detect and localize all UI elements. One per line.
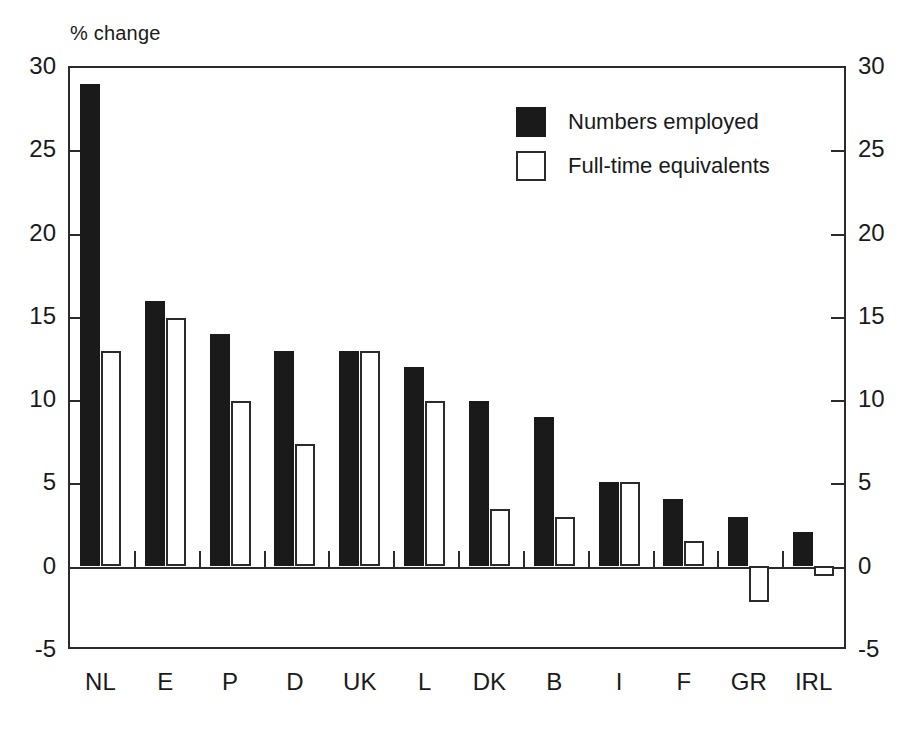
x-axis-label-uk: UK	[343, 668, 376, 696]
y-axis-label-left: 30	[29, 54, 56, 78]
x-axis-group-tick	[523, 551, 525, 568]
y-axis-label-right: -5	[858, 637, 879, 661]
x-axis-label-d: D	[286, 668, 303, 696]
y-axis-label-right: 0	[858, 554, 871, 578]
y-axis-tick-left	[70, 567, 83, 569]
bar-chart: % change 303025252020151510105500-5-5NLE…	[0, 0, 914, 731]
legend-label-numbers-employed: Numbers employed	[568, 109, 759, 135]
x-axis-group-tick	[199, 551, 201, 568]
y-axis-label-right: 5	[858, 470, 871, 494]
x-axis-label-i: I	[616, 668, 623, 696]
y-axis-label-left: 0	[43, 554, 56, 578]
y-axis-label-left: 20	[29, 221, 56, 245]
y-axis-label-right: 25	[858, 137, 885, 161]
y-axis-unit-label: % change	[70, 22, 161, 45]
x-axis-group-tick	[134, 551, 136, 568]
y-axis-label-right: 30	[858, 54, 885, 78]
legend-label-full-time-equivalents: Full-time equivalents	[568, 153, 770, 179]
y-axis-tick-left	[70, 234, 83, 236]
y-axis-tick-left	[70, 400, 83, 402]
y-axis-label-left: 15	[29, 304, 56, 328]
x-axis-label-nl: NL	[85, 668, 116, 696]
x-axis-group-tick	[717, 551, 719, 568]
y-axis-label-left: 25	[29, 137, 56, 161]
y-axis-tick-right	[831, 567, 844, 569]
y-axis-tick-right	[831, 150, 844, 152]
x-axis-group-tick	[264, 551, 266, 568]
x-axis-label-dk: DK	[473, 668, 506, 696]
x-axis-label-l: L	[418, 668, 431, 696]
x-axis-group-tick	[328, 551, 330, 568]
y-axis-tick-right	[831, 400, 844, 402]
x-axis-group-tick	[782, 551, 784, 568]
x-axis-label-e: E	[157, 668, 173, 696]
y-axis-tick-right	[831, 234, 844, 236]
x-axis-label-p: P	[222, 668, 238, 696]
y-axis-tick-left	[70, 150, 83, 152]
y-axis-tick-left	[70, 483, 83, 485]
y-axis-label-right: 20	[858, 221, 885, 245]
x-axis-group-tick	[588, 551, 590, 568]
y-axis-label-left: 10	[29, 387, 56, 411]
chart-legend: Numbers employed Full-time equivalents	[516, 100, 770, 188]
y-axis-label-right: 10	[858, 387, 885, 411]
legend-swatch-hollow-icon	[516, 151, 546, 181]
x-axis-label-b: B	[546, 668, 562, 696]
legend-item-full-time-equivalents: Full-time equivalents	[516, 144, 770, 188]
x-axis-group-tick	[393, 551, 395, 568]
y-axis-tick-right	[831, 317, 844, 319]
y-axis-label-left: 5	[43, 470, 56, 494]
x-axis-group-tick	[458, 551, 460, 568]
x-axis-label-irl: IRL	[795, 668, 832, 696]
zero-baseline	[70, 567, 844, 569]
legend-swatch-filled-icon	[516, 107, 546, 137]
x-axis-label-f: F	[677, 668, 692, 696]
y-axis-tick-right	[831, 483, 844, 485]
x-axis-group-tick	[653, 551, 655, 568]
y-axis-label-right: 15	[858, 304, 885, 328]
x-axis-label-gr: GR	[731, 668, 767, 696]
y-axis-tick-left	[70, 317, 83, 319]
legend-item-numbers-employed: Numbers employed	[516, 100, 770, 144]
y-axis-label-left: -5	[35, 637, 56, 661]
